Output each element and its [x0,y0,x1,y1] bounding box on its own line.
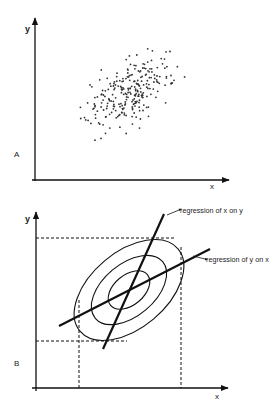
scatter-dot [123,93,125,95]
panel-b-x-label: x [215,392,219,401]
scatter-dot [169,51,171,53]
scatter-dot [129,55,131,57]
scatter-dot [125,133,127,135]
scatter-dot [165,102,167,104]
scatter-dot [115,97,117,99]
scatter-dot [95,114,97,116]
scatter-dot [145,73,147,75]
scatter-dot [138,102,140,104]
scatter-dot [147,48,149,50]
scatter-dot [110,100,112,102]
scatter-dot [151,71,153,73]
scatter-dot [148,106,150,108]
scatter-dot [118,103,120,105]
scatter-dot [99,79,101,81]
scatter-dot [131,74,133,76]
scatter-dot [170,83,172,85]
panel-a-x-label: x [210,182,214,191]
scatter-dot [134,80,136,82]
scatter-dot [111,112,113,114]
scatter-dot [106,105,108,107]
scatter-dot [121,92,123,94]
scatter-dot [115,110,117,112]
scatter-dot [127,92,129,94]
scatter-dot [154,78,156,80]
scatter-dot [139,99,141,101]
scatter-dot [140,76,142,78]
scatter-dot [133,64,135,66]
panel-a: y x A [14,18,229,191]
scatter-dot [166,66,168,68]
panel-b: y x B regression of x on y regression of… [14,206,269,401]
scatter-dot [143,84,145,86]
scatter-dot [117,116,119,118]
scatter-dot [131,85,133,87]
scatter-dot [131,116,133,118]
scatter-dot [139,127,141,129]
dashed-guides [36,238,181,388]
scatter-dot [102,90,104,92]
scatter-dot [164,58,166,60]
scatter-dot [146,86,148,88]
scatter-dot [133,103,135,105]
scatter-dot [80,106,82,108]
scatter-dot [116,72,118,74]
scatter-dot [121,112,123,114]
scatter-dot [141,96,143,98]
scatter-dot [156,67,158,69]
scatter-dot [109,127,111,129]
scatter-dot [106,77,108,79]
scatter-dot [127,87,129,89]
scatter-dot [100,69,102,71]
scatter-dot [122,78,124,80]
scatter-dot [132,123,134,125]
scatter-dot [119,126,121,128]
scatter-dot [109,83,111,85]
scatter-dot [110,85,112,87]
scatter-dot [135,93,137,95]
scatter-dot [141,80,143,82]
scatter-dot [113,83,115,85]
scatter-dot [97,110,99,112]
scatter-dot [164,67,166,69]
scatter-dot [156,79,158,81]
panel-a-y-label: y [25,24,30,34]
scatter-dot [113,85,115,87]
scatter-dot [116,76,118,78]
scatter-dot [109,100,111,102]
scatter-dot [149,68,151,70]
scatter-dot [97,96,99,98]
scatter-dot [101,102,103,104]
scatter-dot [129,88,131,90]
scatter-dot [149,88,151,90]
scatter-dot [126,94,128,96]
scatter-dot [145,68,147,70]
scatter-dot [104,90,106,92]
panel-b-label: B [14,359,19,368]
scatter-dot [84,117,86,119]
scatter-dot [157,90,159,92]
scatter-dot [138,94,140,96]
scatter-dot [137,83,139,85]
scatter-dot [154,74,156,76]
scatter-dot [131,106,133,108]
scatter-dot [160,58,162,60]
scatter-dot [103,109,105,111]
scatter-dot [151,60,153,62]
scatter-dot [94,97,96,99]
scatter-dot [127,89,129,91]
scatter-dot [136,83,138,85]
scatter-dot [95,117,97,119]
scatter-dot [184,76,186,78]
scatter-dot [146,107,148,109]
scatter-dot [102,124,104,126]
scatter-dot [138,106,140,108]
scatter-dot [140,87,142,89]
scatter-dot [99,123,101,125]
scatter-dot [124,104,126,106]
scatter-dot [121,81,123,83]
scatter-dot [113,105,115,107]
scatter-dot [156,75,158,77]
scatter-dot [147,61,149,63]
scatter-dot [136,101,138,103]
